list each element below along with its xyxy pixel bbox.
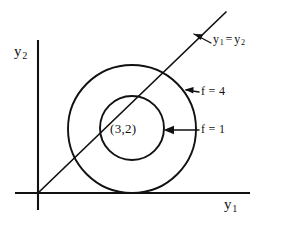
identity-line-label: y1=y2	[213, 33, 245, 47]
identity-line-label-rhs-subscript: 2	[240, 38, 245, 47]
x-axis-label: y1	[224, 197, 238, 214]
identity-line	[38, 12, 226, 193]
inner-contour-label: f = 1	[201, 123, 225, 135]
inner-contour-leader-arrow	[164, 126, 200, 134]
x-axis-label-base: y	[224, 196, 232, 212]
y-axis-label-base: y	[14, 43, 22, 59]
outer-contour-label: f = 4	[201, 85, 225, 97]
y-axis-label: y2	[14, 44, 28, 61]
identity-line-leader-arrow	[194, 34, 211, 43]
identity-line-label-equals: =	[224, 32, 234, 46]
x-axis-label-subscript: 1	[232, 203, 238, 214]
center-point-label: (3,2)	[110, 122, 136, 135]
y-axis-label-subscript: 2	[22, 50, 28, 61]
outer-contour-leader-arrow	[185, 87, 199, 94]
figure-root: y2 y1 y1=y2 f = 4 f = 1 (3,2)	[0, 0, 282, 229]
